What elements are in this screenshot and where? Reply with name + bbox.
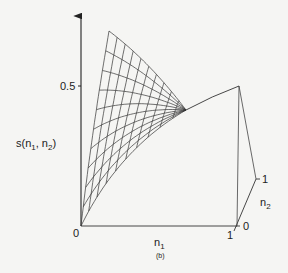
right-edge: [237, 86, 239, 226]
surface-mesh: [81, 31, 186, 226]
n1-axis-label: n1: [154, 236, 165, 251]
origin-label: 0: [73, 227, 79, 239]
figure-caption: (b): [156, 252, 165, 260]
surface-plot-svg: 0.5 s(n1, n2) 0 1 n1 (b) 0 1 n2: [0, 0, 288, 273]
mesh-line: [83, 110, 186, 207]
n2-tick-1-label: 1: [262, 173, 268, 185]
n2-axis-label: n2: [260, 196, 271, 211]
n2-tick-0-label: 0: [243, 220, 249, 232]
back-edge: [239, 86, 256, 179]
n1-tick-1-label: 1: [227, 229, 233, 241]
tick-label-0-5: 0.5: [60, 80, 75, 92]
mesh-line: [96, 104, 186, 110]
mesh-line: [94, 110, 187, 130]
ridge-line: [186, 86, 239, 110]
surface-plot: 0.5 s(n1, n2) 0 1 n1 (b) 0 1 n2: [0, 0, 288, 273]
vertical-axis-label: s(n1, n2): [16, 137, 56, 152]
